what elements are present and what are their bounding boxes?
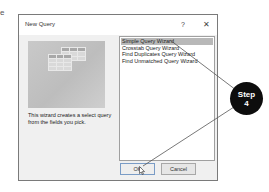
close-button[interactable]: ✕ (200, 19, 212, 31)
new-query-dialog: New Query ? ✕ This wizard creates a sele… (18, 14, 218, 181)
ok-button[interactable]: OK (120, 163, 155, 175)
step-callout-badge: Step 4 (230, 82, 263, 115)
table-grid-icon (48, 54, 72, 71)
help-button[interactable]: ? (177, 19, 189, 31)
list-item-find-unmatched-query-wizard[interactable]: Find Unmatched Query Wizard (121, 58, 213, 65)
step-number: 4 (244, 99, 248, 108)
page-margin-letter: e (0, 8, 4, 17)
dialog-titlebar: New Query ? ✕ (19, 15, 217, 35)
cancel-button[interactable]: Cancel (161, 163, 196, 175)
wizard-preview-image (28, 41, 105, 108)
wizard-listbox[interactable]: Simple Query Wizard Crosstab Query Wizar… (119, 36, 215, 161)
wizard-description: This wizard creates a select query from … (28, 112, 118, 126)
mouse-pointer-icon (139, 166, 145, 175)
dialog-title: New Query (25, 21, 55, 27)
step-label: Step (238, 90, 255, 99)
